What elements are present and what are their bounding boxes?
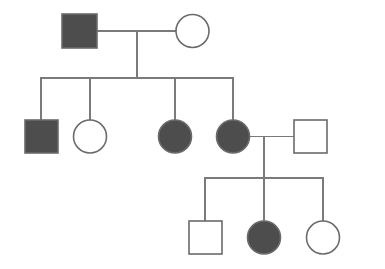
female-circle-symbol[interactable] <box>248 221 281 254</box>
individual-II-4-female-affected[interactable] <box>217 120 250 153</box>
female-circle-symbol[interactable] <box>217 120 250 153</box>
individual-I-1-male-affected[interactable] <box>62 14 97 48</box>
female-circle-symbol[interactable] <box>159 120 192 153</box>
male-square-symbol[interactable] <box>189 221 222 254</box>
female-circle-symbol[interactable] <box>307 221 340 254</box>
pedigree-chart <box>0 0 385 269</box>
individual-I-2-female-unaffected[interactable] <box>176 15 209 48</box>
individual-III-3-female-unaffected[interactable] <box>307 221 340 254</box>
pedigree-canvas <box>0 0 385 269</box>
male-square-symbol[interactable] <box>62 14 97 48</box>
individual-II-5-male-unaffected[interactable] <box>294 120 327 153</box>
individual-II-1-male-affected[interactable] <box>25 120 58 153</box>
female-circle-symbol[interactable] <box>74 120 107 153</box>
individual-II-2-female-unaffected[interactable] <box>74 120 107 153</box>
female-circle-symbol[interactable] <box>176 15 209 48</box>
male-square-symbol[interactable] <box>25 120 58 153</box>
individual-III-2-female-affected[interactable] <box>248 221 281 254</box>
individual-II-3-female-affected[interactable] <box>159 120 192 153</box>
individual-III-1-male-unaffected[interactable] <box>189 221 222 254</box>
male-square-symbol[interactable] <box>294 120 327 153</box>
